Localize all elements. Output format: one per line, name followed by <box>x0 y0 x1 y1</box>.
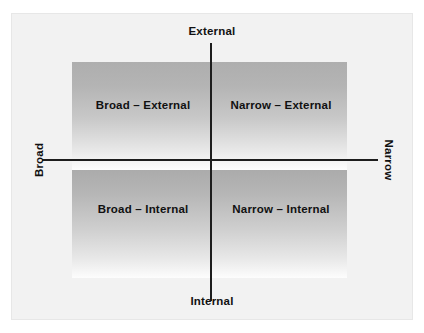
horizontal-axis-line <box>42 159 378 161</box>
quadrant-diagram: External Internal Broad Narrow Broad – E… <box>0 0 424 333</box>
axis-label-left-broad: Broad <box>33 143 45 177</box>
quadrant-label-broad-external: Broad – External <box>78 99 208 111</box>
axis-label-right-narrow: Narrow <box>384 140 396 181</box>
quadrant-label-narrow-external: Narrow – External <box>214 99 348 111</box>
vertical-axis-line <box>210 43 212 301</box>
axis-label-bottom-internal: Internal <box>0 295 424 307</box>
quadrant-label-broad-internal: Broad – Internal <box>78 203 208 215</box>
quadrant-label-narrow-internal: Narrow – Internal <box>214 203 348 215</box>
axis-label-top-external: External <box>0 25 424 37</box>
